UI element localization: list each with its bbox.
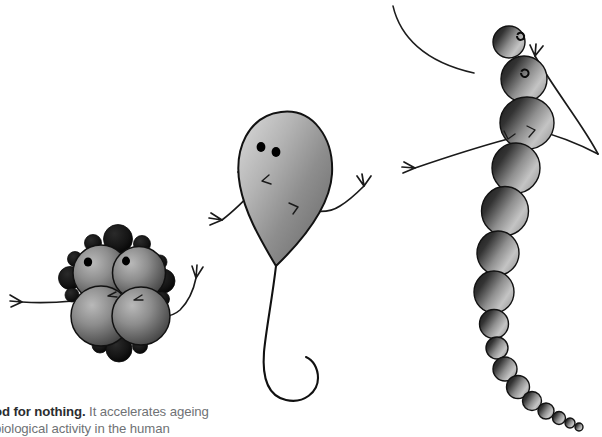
chain-microbe-antenna-arc (393, 6, 474, 73)
teardrop-microbe-tail (264, 266, 318, 401)
creature-teardrop-microbe (209, 112, 371, 401)
creature-cluster-microbe (10, 225, 203, 363)
chain-cell (538, 403, 554, 419)
chain-cell (477, 231, 519, 275)
chain-cell (575, 423, 583, 431)
chain-microbe-cells (474, 26, 583, 431)
chain-cell (486, 337, 508, 359)
chain-cell (500, 97, 554, 149)
caption-lead-text: od for nothing. (0, 404, 86, 419)
teardrop-microbe-body (238, 112, 332, 266)
chain-cell (565, 418, 575, 428)
chain-cell (474, 271, 514, 313)
chain-cell (492, 143, 540, 193)
caption-block: od for nothing. It accelerates ageing bi… (0, 404, 294, 437)
caption-body-text: It accelerates ageing (86, 404, 209, 419)
chain-cell (501, 56, 547, 102)
creature-chain-microbe (393, 6, 598, 431)
caption-second-line: biological activity in the human (0, 421, 294, 437)
chain-cell (482, 187, 529, 236)
chain-cell (553, 412, 566, 425)
chain-cell (493, 26, 525, 58)
chain-cell (480, 310, 509, 339)
